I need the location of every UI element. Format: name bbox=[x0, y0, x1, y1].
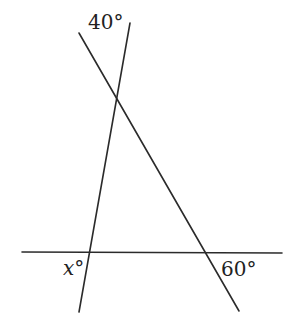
steep-line bbox=[79, 23, 130, 312]
geometry-diagram: 40° x° 60° bbox=[0, 0, 290, 335]
angle-label-x: x° bbox=[63, 256, 84, 280]
horizontal-line bbox=[22, 252, 282, 253]
angle-label-60: 60° bbox=[221, 257, 256, 281]
angle-label-40: 40° bbox=[88, 10, 123, 34]
